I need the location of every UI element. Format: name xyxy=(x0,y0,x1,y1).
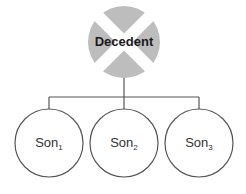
son-2-label: Son2 xyxy=(94,135,154,152)
family-tree-diagram xyxy=(0,0,246,194)
son-1-label: Son1 xyxy=(19,135,79,152)
son-3-label: Son3 xyxy=(169,135,229,152)
decedent-label: Decedent xyxy=(84,34,164,49)
connector-lines xyxy=(49,78,199,109)
